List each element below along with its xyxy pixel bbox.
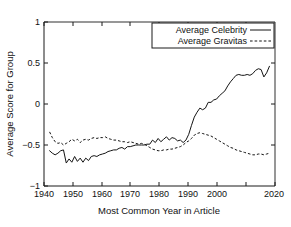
legend-label-average-celebrity: Average Celebrity	[176, 25, 248, 35]
x-tick-label-1990: 1990	[178, 189, 198, 199]
chart-figure: 1 0.5 0 −0.5 −1 1940 1950 1960 1970 1980…	[0, 0, 291, 227]
legend-label-average-gravitas: Average Gravitas	[178, 36, 248, 46]
x-tick-label-1950: 1950	[63, 189, 83, 199]
x-tick-label-2020: 2020	[264, 189, 284, 199]
x-tick-label-1980: 1980	[149, 189, 169, 199]
y-axis-title: Average Score for Group	[4, 51, 15, 156]
line-chart: 1 0.5 0 −0.5 −1 1940 1950 1960 1970 1980…	[0, 0, 291, 227]
y-tick-label-0: 0	[35, 99, 40, 109]
y-tick-label-neg0_5: −0.5	[22, 140, 40, 150]
y-tick-label-1: 1	[35, 17, 40, 27]
x-tick-label-1970: 1970	[120, 189, 140, 199]
x-axis-title: Most Common Year in Article	[98, 205, 220, 216]
x-tick-label-2000: 2000	[207, 189, 227, 199]
y-tick-label-0_5: 0.5	[27, 58, 40, 68]
legend: Average Celebrity Average Gravitas	[152, 23, 274, 48]
x-tick-label-1960: 1960	[92, 189, 112, 199]
x-tick-label-1940: 1940	[34, 189, 54, 199]
